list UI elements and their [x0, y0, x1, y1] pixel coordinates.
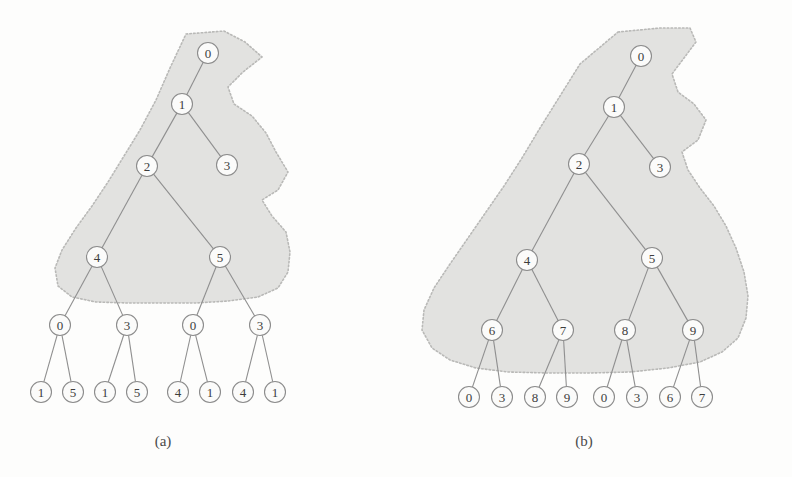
tree-node-a-1-l5[interactable]: 1 — [31, 382, 52, 403]
tree-node-a-2-l2[interactable]: 2 — [137, 156, 158, 177]
node-label: 3 — [224, 158, 231, 173]
tree-edge — [196, 335, 208, 382]
tree-node-a-1-l5[interactable]: 1 — [265, 382, 286, 403]
node-label: 2 — [144, 159, 151, 174]
node-label: 4 — [524, 253, 531, 268]
tree-node-b-3-l5[interactable]: 3 — [492, 387, 513, 408]
node-label: 3 — [634, 390, 641, 405]
tree-edge — [129, 335, 136, 381]
tree-node-a-1-l1[interactable]: 1 — [172, 94, 193, 115]
node-label: 0 — [205, 46, 212, 61]
panel-b: 012345678903890367(b) — [422, 28, 748, 450]
node-label: 7 — [560, 323, 567, 338]
tree-edge — [246, 335, 258, 382]
tree-edge — [44, 335, 57, 382]
node-label: 5 — [217, 250, 224, 265]
node-label: 0 — [601, 390, 608, 405]
tree-node-b-6-l4[interactable]: 6 — [482, 320, 503, 341]
node-label: 9 — [564, 390, 571, 405]
node-label: 3 — [657, 160, 664, 175]
node-label: 4 — [94, 250, 101, 265]
tree-figure: 012345030315154141(a)012345678903890367(… — [0, 0, 792, 477]
node-label: 3 — [499, 390, 506, 405]
tree-node-b-2-l2[interactable]: 2 — [569, 154, 590, 175]
node-label: 5 — [134, 385, 141, 400]
tree-node-a-1-l5[interactable]: 1 — [200, 382, 221, 403]
node-label: 8 — [622, 323, 629, 338]
figure-canvas: 012345030315154141(a)012345678903890367(… — [0, 0, 792, 477]
tree-node-a-1-l5[interactable]: 1 — [95, 382, 116, 403]
node-label: 1 — [179, 97, 186, 112]
tree-node-a-3-l4[interactable]: 3 — [117, 315, 138, 336]
tree-node-b-6-l5[interactable]: 6 — [660, 387, 681, 408]
node-label: 3 — [257, 318, 264, 333]
node-label: 1 — [102, 385, 109, 400]
node-label: 0 — [57, 318, 64, 333]
panel-a: 012345030315154141(a) — [31, 31, 291, 450]
tree-edge — [62, 335, 71, 381]
node-label: 6 — [667, 390, 674, 405]
tree-node-b-9-l4[interactable]: 9 — [683, 320, 704, 341]
tree-node-b-3-l5[interactable]: 3 — [627, 387, 648, 408]
tree-node-b-0-l5[interactable]: 0 — [459, 387, 480, 408]
node-label: 3 — [124, 318, 131, 333]
tree-node-a-5-l3[interactable]: 5 — [210, 247, 231, 268]
node-label: 1 — [611, 100, 618, 115]
tree-node-b-0-l5[interactable]: 0 — [594, 387, 615, 408]
node-label: 4 — [175, 385, 182, 400]
tree-node-a-0-l4[interactable]: 0 — [183, 315, 204, 336]
node-label: 5 — [70, 385, 77, 400]
tree-node-a-3-l4[interactable]: 3 — [250, 315, 271, 336]
node-label: 0 — [466, 390, 473, 405]
tree-node-a-0-l0[interactable]: 0 — [198, 43, 219, 64]
tree-edge — [108, 335, 123, 382]
node-label: 0 — [638, 49, 645, 64]
tree-node-b-7-l4[interactable]: 7 — [553, 320, 574, 341]
tree-edge — [262, 335, 272, 382]
tree-node-b-3-l2[interactable]: 3 — [650, 157, 671, 178]
node-label: 8 — [532, 390, 539, 405]
tree-node-a-3-l2[interactable]: 3 — [217, 155, 238, 176]
tree-node-a-4-l5[interactable]: 4 — [168, 382, 189, 403]
tree-node-b-7-l5[interactable]: 7 — [692, 387, 713, 408]
panel-caption-b: (b) — [575, 433, 593, 450]
tree-node-b-1-l1[interactable]: 1 — [604, 97, 625, 118]
node-label: 2 — [576, 157, 583, 172]
node-label: 7 — [699, 390, 706, 405]
node-label: 1 — [207, 385, 214, 400]
tree-node-b-8-l4[interactable]: 8 — [615, 320, 636, 341]
tree-node-b-4-l3[interactable]: 4 — [517, 250, 538, 271]
tree-node-a-5-l5[interactable]: 5 — [127, 382, 148, 403]
node-label: 5 — [649, 251, 656, 266]
tree-node-b-8-l5[interactable]: 8 — [525, 387, 546, 408]
tree-node-b-0-l0[interactable]: 0 — [631, 46, 652, 67]
node-label: 0 — [190, 318, 197, 333]
tree-node-a-4-l5[interactable]: 4 — [233, 382, 254, 403]
node-label: 4 — [240, 385, 247, 400]
tree-node-b-9-l5[interactable]: 9 — [557, 387, 578, 408]
tree-node-a-5-l5[interactable]: 5 — [63, 382, 84, 403]
node-label: 9 — [690, 323, 697, 338]
tree-node-a-4-l3[interactable]: 4 — [87, 247, 108, 268]
tree-edge — [180, 335, 190, 382]
node-label: 6 — [489, 323, 496, 338]
node-label: 1 — [272, 385, 279, 400]
tree-node-a-0-l4[interactable]: 0 — [50, 315, 71, 336]
panel-caption-a: (a) — [155, 433, 172, 450]
node-label: 1 — [38, 385, 45, 400]
tree-node-b-5-l3[interactable]: 5 — [642, 248, 663, 269]
